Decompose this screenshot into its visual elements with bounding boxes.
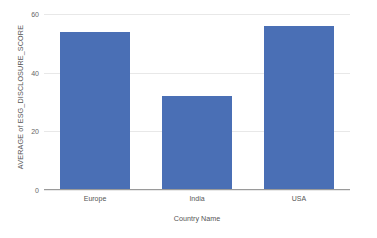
x-axis-title: Country Name: [44, 214, 350, 223]
bar-group: USA: [248, 14, 350, 190]
bar[interactable]: [264, 26, 334, 190]
bar[interactable]: [162, 96, 232, 190]
x-tick-label: India: [189, 195, 204, 202]
bars: EuropeIndiaUSA: [44, 14, 350, 190]
bar-group: India: [146, 14, 248, 190]
y-tick-label: 60: [31, 11, 39, 18]
plot-area: 0204060 EuropeIndiaUSA: [44, 14, 350, 190]
y-tick-label: 20: [31, 128, 39, 135]
y-tick-label: 40: [31, 69, 39, 76]
x-axis-line: [44, 189, 350, 190]
x-tick-label: USA: [292, 195, 306, 202]
y-tick-label: 0: [35, 187, 39, 194]
bar-chart: AVERAGE of ESG_DISCLOSURE_SCORE 0204060 …: [0, 0, 377, 238]
bar[interactable]: [60, 32, 130, 190]
gridline-0: 0: [44, 190, 350, 191]
bar-group: Europe: [44, 14, 146, 190]
x-tick-label: Europe: [84, 195, 107, 202]
y-axis-title: AVERAGE of ESG_DISCLOSURE_SCORE: [14, 2, 28, 192]
